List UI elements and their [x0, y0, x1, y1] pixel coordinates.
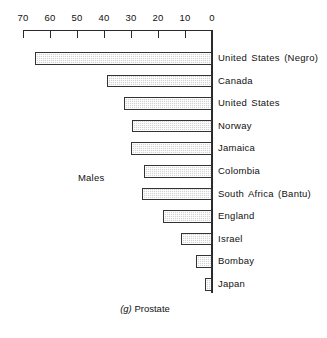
- bar-israel: [181, 233, 212, 246]
- table-row: Norway: [0, 116, 327, 139]
- bar-colombia: [144, 165, 211, 178]
- chart-caption: (g) Prostate: [0, 302, 290, 315]
- bar-bombay: [196, 255, 212, 268]
- bar-label-united-states-negro: United States (Negro): [218, 51, 318, 65]
- table-row: United States (Negro): [0, 48, 327, 71]
- bar-england: [163, 210, 212, 223]
- bar-united-states: [124, 97, 212, 110]
- table-row: Colombia: [0, 161, 327, 184]
- bar-label-norway: Norway: [218, 119, 252, 133]
- bar-label-japan: Japan: [218, 277, 245, 291]
- table-row: Israel: [0, 229, 327, 252]
- bar-canada: [107, 75, 212, 88]
- table-row: United States: [0, 93, 327, 116]
- table-row: Japan: [0, 274, 327, 297]
- bar-japan: [205, 278, 212, 291]
- bar-label-colombia: Colombia: [218, 164, 260, 178]
- bar-norway: [132, 120, 212, 133]
- bar-label-bombay: Bombay: [218, 254, 254, 268]
- bar-label-canada: Canada: [218, 74, 253, 88]
- bar-label-england: England: [218, 209, 255, 223]
- table-row: Canada: [0, 71, 327, 94]
- caption-text: Prostate: [134, 303, 169, 314]
- group-label-males: Males: [78, 172, 104, 184]
- caption-index: (g): [120, 303, 132, 314]
- bar-label-united-states: United States: [218, 96, 280, 110]
- prostate-cancer-bar-chart: 70 60 50 40 30 20 10 0 United States (Ne…: [0, 0, 327, 338]
- bar-label-jamaica: Jamaica: [218, 141, 255, 155]
- table-row: England: [0, 206, 327, 229]
- bar-label-south-africa-bantu: South Africa (Bantu): [218, 187, 311, 201]
- bar-jamaica: [131, 142, 212, 155]
- bars-layer: United States (Negro) Canada United Stat…: [0, 0, 327, 338]
- bar-south-africa-bantu: [142, 188, 212, 201]
- table-row: Bombay: [0, 251, 327, 274]
- table-row: South Africa (Bantu): [0, 184, 327, 207]
- bar-label-israel: Israel: [218, 232, 243, 246]
- bar-united-states-negro: [35, 52, 212, 65]
- table-row: Jamaica: [0, 138, 327, 161]
